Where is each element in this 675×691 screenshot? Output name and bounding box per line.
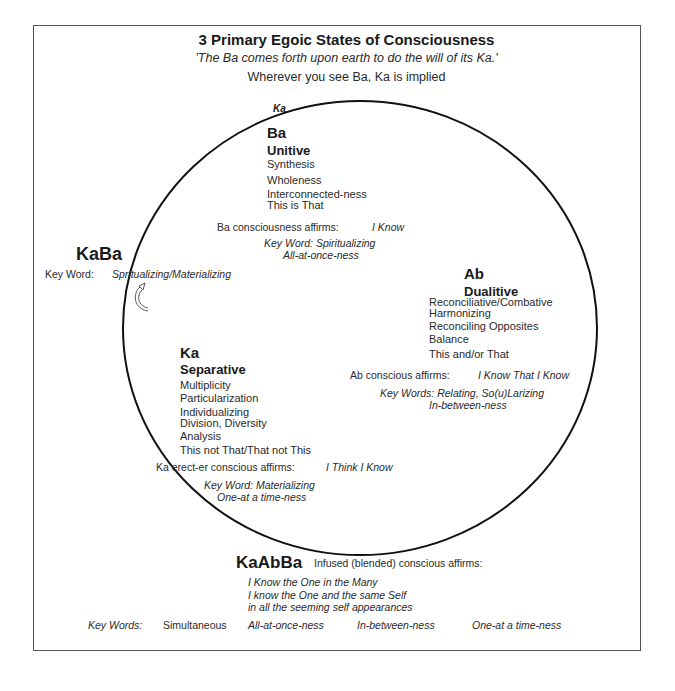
kaabba-name: KaAbBa [236, 554, 302, 571]
ab-key-word: Key Words: Relating, So(u)Larizing [380, 388, 544, 399]
ka-affirm-label: Ka erect-er conscious affirms: [156, 462, 295, 473]
ka-key-word: Key Word: Materializing [204, 480, 315, 491]
footer-key-label: Key Words: [88, 620, 142, 631]
ba-name: Ba [267, 125, 286, 140]
ba-trait: Wholeness [267, 175, 321, 186]
ka-trait: Analysis [180, 431, 221, 442]
ab-affirm-value: I Know That I Know [478, 370, 569, 381]
header-note: Wherever you see Ba, Ka is implied [0, 71, 675, 84]
ab-ness: In-between-ness [429, 400, 507, 411]
ba-key-word: Key Word: Spiritualizing [264, 238, 375, 249]
ka-trait: This not That/That not This [180, 445, 311, 456]
kaba-name: KaBa [76, 245, 122, 263]
ka-trait: Division, Diversity [180, 418, 267, 429]
ka-name: Ka [180, 345, 199, 360]
kaba-key-label: Key Word: [45, 269, 94, 280]
kaabba-affirm: I know the One and the same Self [248, 590, 406, 601]
ka-trait: Particularization [180, 393, 258, 404]
ba-trait: Synthesis [267, 159, 315, 170]
curved-arrow-icon [130, 280, 160, 315]
ab-name: Ab [464, 266, 484, 281]
ka-ness: One-at a time-ness [217, 492, 306, 503]
ab-trait: This and/or That [429, 349, 509, 360]
kaabba-affirm: in all the seeming self appearances [248, 602, 413, 613]
circle-ka-label: Ka [273, 104, 286, 114]
ba-state: Unitive [267, 144, 310, 157]
footer-key-word: In-between-ness [357, 620, 435, 631]
ka-affirm-value: I Think I Know [326, 462, 393, 473]
kaabba-affirm: I Know the One in the Many [248, 577, 378, 588]
ab-trait: Reconciling Opposites [429, 321, 538, 332]
kaabba-affirm-label: Infused (blended) conscious affirms: [314, 558, 482, 569]
kaba-key-value: Spritualizing/Materializing [112, 269, 231, 280]
ab-trait: Harmonizing [429, 308, 491, 319]
ab-affirm-label: Ab conscious affirms: [350, 370, 450, 381]
header-quote: 'The Ba comes forth upon earth to do the… [0, 52, 675, 65]
footer-key-word: Simultaneous [163, 620, 227, 631]
ka-state: Separative [180, 363, 246, 376]
ba-affirm-value: I Know [372, 222, 404, 233]
footer-key-word: One-at a time-ness [472, 620, 561, 631]
ba-ness: All-at-once-ness [283, 250, 359, 261]
footer-key-word: All-at-once-ness [248, 620, 324, 631]
ba-trait: This is That [267, 200, 324, 211]
page-title: 3 Primary Egoic States of Consciousness [0, 32, 675, 47]
ba-affirm-label: Ba consciousness affirms: [217, 222, 339, 233]
ab-trait: Balance [429, 334, 469, 345]
ka-trait: Multiplicity [180, 380, 231, 391]
